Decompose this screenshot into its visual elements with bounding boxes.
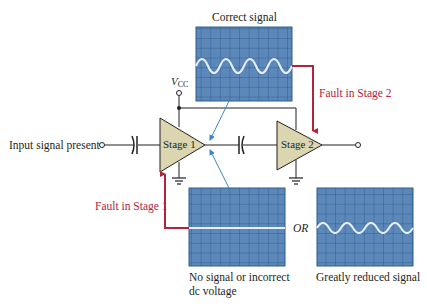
no-signal-caption-line2: dc voltage [189, 284, 237, 298]
probe-arrow-top [210, 101, 229, 140]
output-terminal [356, 143, 361, 148]
fault-stage1-arrow [165, 174, 189, 228]
vcc-junction [177, 106, 181, 110]
fault-stage2-label: Fault in Stage 2 [319, 86, 392, 100]
correct-signal-label: Correct signal [212, 10, 277, 24]
input-signal-label: Input signal present [9, 138, 100, 152]
scope-reduced-signal [317, 188, 413, 266]
scope-no-signal [189, 188, 285, 266]
vcc-main: V [171, 75, 178, 87]
reduced-signal-caption: Greatly reduced signal [316, 270, 420, 284]
troubleshooting-diagram [0, 0, 427, 308]
stage1-label: Stage 1 [163, 138, 196, 150]
stage2-label: Stage 2 [281, 138, 314, 150]
vcc-label: VCC [171, 75, 188, 89]
input-terminal [100, 143, 105, 148]
ground-icon-stage1 [172, 178, 186, 184]
fault-stage2-arrow [292, 66, 313, 131]
vcc-sub: CC [178, 80, 189, 89]
scope-correct-signal [196, 27, 292, 101]
circuit-wires [105, 96, 355, 178]
ground-icon-stage2 [289, 178, 303, 184]
or-label: OR [293, 221, 308, 235]
vcc-terminal [177, 91, 182, 96]
no-signal-caption-line1: No signal or incorrect [189, 270, 290, 284]
fault-stage1-label: Fault in Stage 1 [95, 199, 168, 213]
probe-arrow-bottom [210, 150, 229, 188]
